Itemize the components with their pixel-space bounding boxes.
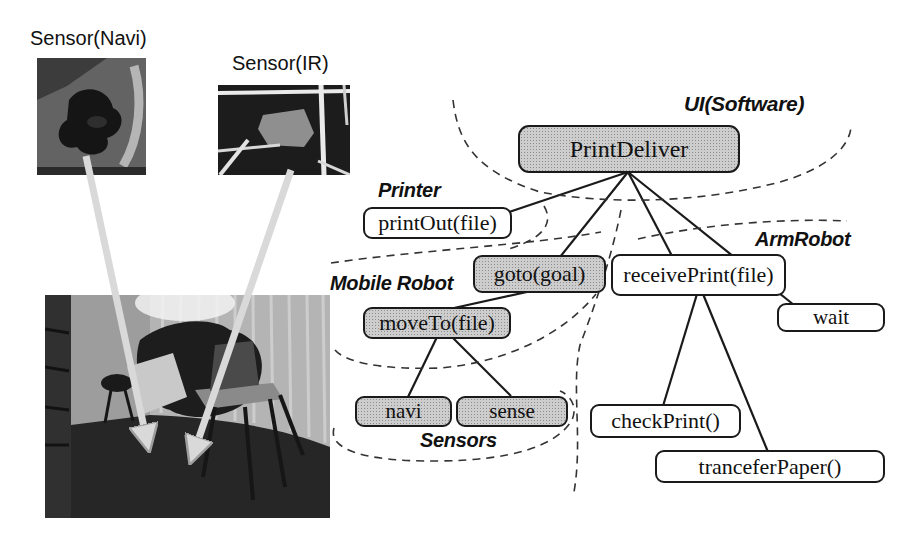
- mobile-arm-boundary: [574, 210, 621, 492]
- node-print-deliver: PrintDeliver: [518, 125, 740, 173]
- group-label-arm-robot: ArmRobot: [755, 228, 850, 251]
- sensor-navi-photo: [37, 58, 146, 175]
- node-sense: sense: [456, 396, 568, 427]
- printer-boundary: [509, 206, 548, 249]
- group-label-sensors: Sensors: [420, 429, 497, 452]
- node-move-to: moveTo(file): [363, 307, 511, 339]
- node-goto-goal: goto(goal): [473, 255, 606, 293]
- photo-edge: [37, 167, 146, 175]
- ir-blob: [258, 109, 314, 147]
- node-wait: wait: [777, 303, 885, 332]
- grid-line: [218, 91, 350, 93]
- node-receive-print: receivePrint(file): [611, 254, 786, 296]
- chair-back: [210, 341, 259, 391]
- photo-detail: [87, 116, 107, 128]
- group-label-ui-software: UI(Software): [684, 92, 804, 116]
- sensor-ir-caption: Sensor(IR): [232, 52, 329, 75]
- node-check-print: checkPrint(): [590, 404, 741, 438]
- node-trancefer-paper: tranceferPaper(): [655, 450, 885, 483]
- sensor-navi-caption: Sensor(Navi): [30, 27, 147, 50]
- sensor-ir-photo: [218, 85, 350, 175]
- room-photo: [45, 295, 330, 518]
- node-print-out: printOut(file): [363, 207, 512, 239]
- task-tree-figure: Sensor(Navi) Sensor(IR): [0, 0, 916, 553]
- group-label-printer: Printer: [378, 179, 440, 202]
- stool: [101, 374, 133, 392]
- group-label-mobile-robot: Mobile Robot: [330, 272, 453, 295]
- node-navi: navi: [355, 396, 452, 427]
